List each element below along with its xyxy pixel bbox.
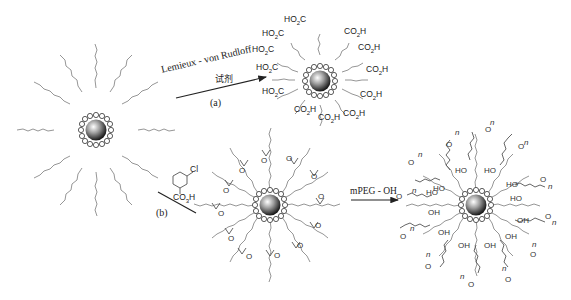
epoxide-oxygen: O xyxy=(261,156,267,165)
group-co2h: CO2H xyxy=(358,42,380,54)
hydroxyl-group: OH xyxy=(517,216,529,225)
repeat-unit-n: n xyxy=(426,250,430,259)
epoxide-oxygen: O xyxy=(315,221,321,230)
epoxide-oxygen: O xyxy=(297,241,303,250)
repeat-unit-n: n xyxy=(502,264,506,273)
reaction-scheme-canvas xyxy=(0,0,571,300)
hydroxyl-group: OH xyxy=(505,232,517,241)
hydroxyl-group: HO xyxy=(455,166,467,175)
repeat-unit-n: n xyxy=(412,186,416,195)
mcpba-structure xyxy=(173,172,193,194)
group-co2h: CO2H xyxy=(360,89,382,101)
step-label-a: (a) xyxy=(210,97,221,108)
hydroxyl-group: OH xyxy=(428,208,440,217)
epoxide-oxygen: O xyxy=(239,166,245,175)
epoxide-nanoparticle xyxy=(194,128,340,282)
reagent-mpeg-oh: mPEG - OH xyxy=(350,186,397,196)
peg-oxygen: O xyxy=(446,140,452,149)
hydroxyl-group: OH xyxy=(458,241,470,250)
repeat-unit-n: n xyxy=(552,218,556,227)
group-ho2c: HO2C xyxy=(262,86,284,98)
peg-oxygen: O xyxy=(468,280,474,289)
mcpba-chloro: Cl xyxy=(190,164,198,174)
repeat-unit-n: n xyxy=(418,150,422,159)
group-ho2c: HO2C xyxy=(256,62,278,74)
nanoparticle-core xyxy=(310,71,331,92)
nanoparticle-core xyxy=(260,195,281,216)
group-co2h: CO2H xyxy=(344,26,366,38)
epoxide-oxygen: O xyxy=(246,252,252,261)
starting-nanoparticle xyxy=(17,44,175,216)
peg-oxygen: O xyxy=(396,192,402,201)
epoxide-oxygen: O xyxy=(318,192,324,201)
nanoparticle-core xyxy=(466,195,487,216)
epoxide-oxygen: O xyxy=(223,186,229,195)
peg-oxygen: O xyxy=(408,158,414,167)
repeat-unit-n: n xyxy=(548,182,552,191)
epoxide-oxygen: O xyxy=(228,234,234,243)
reagent-label-chinese: 试剂 xyxy=(215,72,233,85)
repeat-unit-n: n xyxy=(460,272,464,281)
hydroxyl-group: OH xyxy=(484,241,496,250)
mcpba-peracid: CO3H xyxy=(173,192,195,204)
repeat-unit-n: n xyxy=(524,138,528,147)
step-label-b: (b) xyxy=(156,207,168,218)
group-ho2c: HO2C xyxy=(284,14,306,26)
hydroxyl-group: HO xyxy=(510,194,522,203)
group-ho2c: HO2C xyxy=(262,28,284,40)
epoxide-oxygen: O xyxy=(274,251,280,260)
epoxide-oxygen: O xyxy=(286,154,292,163)
peg-oxygen: O xyxy=(530,250,536,259)
group-co2h: CO2H xyxy=(318,112,340,124)
hydroxyl-group: OH xyxy=(438,228,450,237)
hydroxyl-group: HO xyxy=(484,166,496,175)
peg-oxygen: O xyxy=(425,262,431,271)
repeat-unit-n: n xyxy=(490,118,494,127)
group-co2h: CO2H xyxy=(294,104,316,116)
peg-oxygen: O xyxy=(540,175,546,184)
group-co2h: CO2H xyxy=(366,64,388,76)
repeat-unit-n: n xyxy=(410,224,414,233)
nanoparticle-core xyxy=(86,120,107,141)
epoxide-oxygen: O xyxy=(218,209,224,218)
hydroxyl-group: HO xyxy=(506,180,518,189)
peg-oxygen: O xyxy=(545,212,551,221)
epoxide-oxygen: O xyxy=(311,172,317,181)
peg-oxygen: O xyxy=(400,232,406,241)
repeat-unit-n: n xyxy=(532,240,536,249)
peg-oxygen: O xyxy=(505,275,511,284)
group-ho2c: HO2C xyxy=(252,44,274,56)
repeat-unit-n: n xyxy=(455,128,459,137)
hydroxyl-group: HO xyxy=(426,188,438,197)
group-co2h: CO2H xyxy=(343,108,365,120)
